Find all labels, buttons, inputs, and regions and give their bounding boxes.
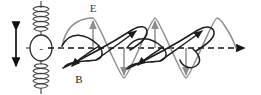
em-wave-diagram-canvas: - [0, 0, 261, 95]
antenna-coil-top-icon [33, 6, 49, 36]
em-wave-figure: - [0, 0, 261, 95]
b-field-label: B [75, 73, 82, 85]
b-field-loop-1-arrow [72, 46, 99, 66]
charge-sign-label: - [39, 42, 43, 54]
b-field-loop-4-arrow [160, 31, 202, 61]
e-field-label: E [90, 2, 97, 14]
antenna-coil-bottom-icon [33, 60, 49, 88]
antenna-assembly: - [16, 1, 52, 94]
